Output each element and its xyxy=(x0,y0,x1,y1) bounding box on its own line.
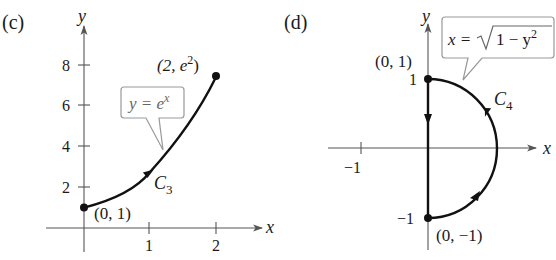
panel-d-label: (d) xyxy=(284,11,307,34)
x-axis-label: x xyxy=(542,138,551,158)
top-point-dot xyxy=(424,75,432,83)
arc-lower-arrow-icon xyxy=(470,191,480,201)
y-tick-label-neg1: −1 xyxy=(397,210,414,227)
callout-text-c: y = ex xyxy=(127,91,170,113)
y-tick-label-6: 6 xyxy=(62,97,70,114)
svg-text:(2, e2): (2, e2) xyxy=(157,53,199,75)
y-tick-label-2: 2 xyxy=(62,179,70,196)
svg-text:x =: x = xyxy=(447,30,471,49)
panel-c-label: (c) xyxy=(2,11,24,34)
top-point-label: (0, 1) xyxy=(375,52,412,71)
svg-text:1 − y2: 1 − y2 xyxy=(496,27,537,49)
curve-label-c4: C4 xyxy=(494,89,513,113)
start-point-dot xyxy=(80,204,88,212)
y-tick-label-8: 8 xyxy=(62,57,70,74)
panel-d: (d) x y −1 1 −1 (0, 1) (0, −1) C4 x = xyxy=(284,6,554,250)
y-axis-label: y xyxy=(420,6,430,26)
x-tick-label-2: 2 xyxy=(212,237,220,254)
y-tick-label-4: 4 xyxy=(62,138,70,155)
bottom-point-label: (0, −1) xyxy=(436,226,482,245)
down-arrow-icon xyxy=(424,114,432,125)
panel-c: (c) x y 1 2 2 4 6 8 (0, 1) (2, e2) xyxy=(2,6,274,254)
x-tick-label-1: 1 xyxy=(145,237,153,254)
curve-label-c3: C3 xyxy=(154,173,173,197)
x-axis-label: x xyxy=(265,217,274,237)
bottom-point-dot xyxy=(424,214,432,222)
x-tick-label-neg1: −1 xyxy=(344,159,361,176)
end-point-dot xyxy=(212,72,220,80)
y-axis-label: y xyxy=(76,6,86,26)
start-point-label: (0, 1) xyxy=(94,204,131,223)
end-point-label: (2, e2) xyxy=(157,53,199,75)
y-tick-label-1: 1 xyxy=(409,71,417,88)
